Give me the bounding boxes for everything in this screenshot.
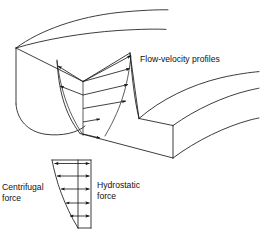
channel-perspective-body [16,10,259,158]
velocity-vector-mid-right [83,101,126,109]
cross-section-wetted-curve [57,60,80,134]
left-wall-bottom-curve [16,104,85,135]
bed-line-to-near-corner [80,134,173,159]
velocity-vector-upper-long-right [83,56,131,82]
hydrostatic-force-label-line2: force [97,191,116,201]
near-bank-top-inner-edge [130,53,139,119]
velocity-vector-mid-upper-right [83,85,128,96]
cross-section-right-rim [83,53,130,82]
velocity-profile-envelope-right [105,56,131,136]
downstream-bed-curve [173,118,259,158]
figure-container: Flow-velocity profiles Centrifugal force… [0,0,260,231]
flow-velocity-profiles-label: Flow-velocity profiles [140,54,220,64]
near-bank-top-surface [139,119,173,126]
hydrostatic-force-label-line1: Hydrostatic [97,180,141,190]
label-group: Flow-velocity profiles Centrifugal force… [2,54,220,203]
velocity-vector-bed-right [83,134,100,138]
velocity-vector-surface-left [58,66,83,82]
velocity-profile-envelope-left [57,61,83,135]
downstream-outer-bank-curve [173,88,259,125]
centrifugal-force-label-line2: force [2,193,21,203]
far-bank-inner-edge [16,29,166,48]
velocity-vector-group [57,56,131,139]
centrifugal-profile-curve [52,160,78,228]
cross-section-left-bank [16,48,83,82]
centrifugal-force-label-line1: Centrifugal [2,182,44,192]
downstream-inner-bank-curve [139,72,259,119]
force-inset-group [52,160,91,228]
flow-velocity-diagram: Flow-velocity profiles Centrifugal force… [0,0,260,231]
velocity-vector-lower-right [83,119,100,122]
velocity-vector-surface-right [83,69,130,82]
